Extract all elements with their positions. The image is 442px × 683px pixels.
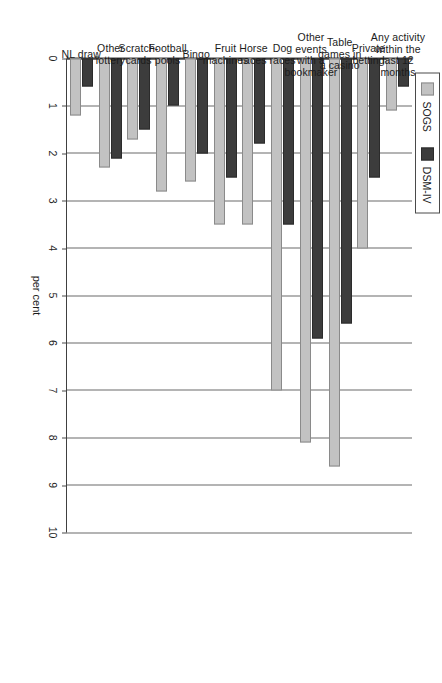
tick-label-0: 0 bbox=[47, 47, 59, 69]
bar-dsm-9 bbox=[341, 58, 352, 323]
gridline-6 bbox=[67, 342, 412, 343]
bar-sogs-9 bbox=[329, 58, 340, 466]
chart-legend: SOGS DSM-IV bbox=[415, 72, 440, 213]
gridline-7 bbox=[67, 389, 412, 390]
tick-label-5: 5 bbox=[47, 284, 59, 306]
bar-sogs-6 bbox=[242, 58, 253, 224]
tick-label-2: 2 bbox=[47, 142, 59, 164]
bar-dsm-5 bbox=[226, 58, 237, 177]
bar-sogs-1 bbox=[99, 58, 110, 167]
bar-dsm-6 bbox=[254, 58, 265, 143]
bar-sogs-2 bbox=[127, 58, 138, 139]
gridline-10 bbox=[67, 532, 412, 533]
bar-chart: NL drawOtherlotteryScratch-cardsFootball… bbox=[0, 0, 442, 683]
bar-sogs-4 bbox=[185, 58, 196, 181]
tick-label-6: 6 bbox=[47, 331, 59, 353]
gridline-9 bbox=[67, 484, 412, 485]
category-label-line: last 12 bbox=[355, 54, 441, 66]
tick-label-1: 1 bbox=[47, 94, 59, 116]
value-axis-line bbox=[66, 58, 67, 532]
chart-figure: NL drawOtherlotteryScratch-cardsFootball… bbox=[0, 0, 442, 683]
legend-swatch-dsm-icon bbox=[421, 147, 434, 160]
legend-label-sogs: SOGS bbox=[422, 101, 434, 131]
legend-swatch-sogs-icon bbox=[421, 82, 434, 95]
legend-entry-sogs: SOGS bbox=[421, 82, 434, 131]
bar-sogs-3 bbox=[156, 58, 167, 191]
tick-label-3: 3 bbox=[47, 189, 59, 211]
value-axis-title: per cent bbox=[31, 58, 43, 532]
bar-dsm-4 bbox=[197, 58, 208, 153]
category-label-11: Any activitywithin thelast 12months bbox=[355, 31, 441, 77]
legend-entry-dsm: DSM-IV bbox=[421, 147, 434, 203]
bar-sogs-0 bbox=[70, 58, 81, 115]
bar-sogs-5 bbox=[214, 58, 225, 224]
tick-label-8: 8 bbox=[47, 426, 59, 448]
bar-dsm-1 bbox=[111, 58, 122, 158]
legend-label-dsm: DSM-IV bbox=[422, 166, 434, 203]
bar-dsm-2 bbox=[139, 58, 150, 129]
gridline-8 bbox=[67, 437, 412, 438]
bar-dsm-7 bbox=[283, 58, 294, 224]
tick-label-10: 10 bbox=[47, 521, 59, 543]
category-label-line: within the bbox=[355, 43, 441, 55]
gridline-5 bbox=[67, 295, 412, 296]
bar-dsm-8 bbox=[312, 58, 323, 338]
category-label-line: Any activity bbox=[355, 31, 441, 43]
tick-label-7: 7 bbox=[47, 379, 59, 401]
bar-sogs-7 bbox=[271, 58, 282, 390]
tick-label-9: 9 bbox=[47, 474, 59, 496]
bar-sogs-8 bbox=[300, 58, 311, 442]
bar-sogs-10 bbox=[357, 58, 368, 248]
tick-label-4: 4 bbox=[47, 237, 59, 259]
